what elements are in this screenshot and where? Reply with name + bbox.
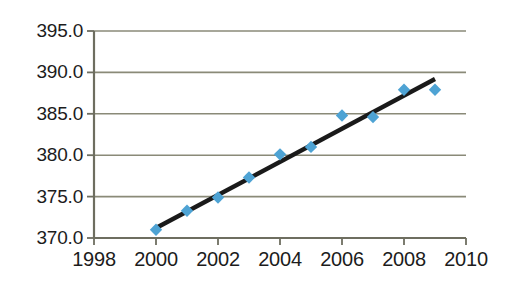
y-axis-tick-label: 390.0 [36,62,83,81]
x-axis-tick-label: 2010 [426,249,506,269]
data-point-marker [429,84,441,96]
y-axis-tick-label: 385.0 [36,104,83,123]
trendline-group [156,79,435,228]
y-axis-tick-label: 380.0 [36,145,83,164]
trendline [156,79,435,228]
data-markers-group [150,84,441,236]
y-axis-tick-label: 395.0 [36,21,83,40]
y-axis-tick-label: 370.0 [36,228,83,247]
chart-container: 370.0375.0380.0385.0390.0395.0 199820002… [0,0,512,285]
gridlines-group [94,31,466,238]
data-point-marker [336,109,348,121]
y-axis-tick-label: 375.0 [36,187,83,206]
